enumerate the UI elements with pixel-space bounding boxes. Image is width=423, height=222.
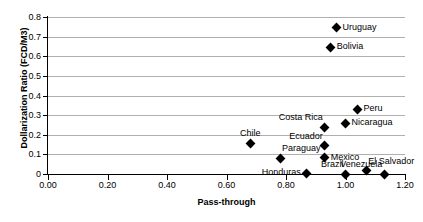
x-tick-mark — [227, 175, 228, 180]
data-point-label: Venezuela — [340, 160, 382, 169]
x-tick-mark — [405, 175, 406, 180]
data-point-label: Nicaragua — [352, 118, 393, 127]
gridline-y — [48, 96, 405, 97]
gridline-y — [48, 115, 405, 116]
y-tick-label: 0.8 — [1, 13, 41, 22]
y-tick-label: 0.3 — [1, 111, 41, 120]
x-tick-mark — [286, 175, 287, 180]
gridline-y — [48, 135, 405, 136]
data-point-label: Bolivia — [337, 42, 364, 51]
y-tick-mark — [43, 96, 48, 97]
data-point-label: Chile — [240, 129, 261, 138]
data-point-label: Paraguay — [282, 144, 321, 153]
diamond-marker-icon — [302, 168, 312, 178]
gridline-y — [48, 76, 405, 77]
x-tick-label: 0.40 — [145, 181, 189, 190]
data-point-label: Honduras — [262, 168, 301, 177]
diamond-marker-icon — [320, 141, 330, 151]
data-point-label: Costa Rica — [279, 113, 323, 122]
y-tick-mark — [43, 56, 48, 57]
data-point-label: Peru — [363, 104, 382, 113]
y-tick-mark — [43, 154, 48, 155]
x-tick-mark — [108, 175, 109, 180]
x-tick-mark — [167, 175, 168, 180]
diamond-marker-icon — [332, 23, 342, 33]
y-tick-label: 0.6 — [1, 52, 41, 61]
y-tick-mark — [43, 76, 48, 77]
y-tick-label: 0.2 — [1, 131, 41, 140]
data-point-label: Uruguay — [343, 23, 377, 32]
diamond-marker-icon — [326, 42, 336, 52]
x-tick-label: 0.00 — [26, 181, 70, 190]
diamond-marker-icon — [352, 104, 362, 114]
y-tick-mark — [43, 37, 48, 38]
gridline-y — [48, 37, 405, 38]
diamond-marker-icon — [245, 139, 255, 149]
y-tick-label: 0.7 — [1, 33, 41, 42]
diamond-marker-icon — [341, 118, 351, 128]
x-tick-label: 0.60 — [205, 181, 249, 190]
x-tick-label: 0.80 — [264, 181, 308, 190]
gridline-y — [48, 17, 405, 18]
y-tick-label: 0.4 — [1, 92, 41, 101]
x-tick-mark — [48, 175, 49, 180]
diamond-marker-icon — [379, 169, 389, 179]
y-tick-label: 0 — [1, 170, 41, 179]
x-tick-label: 0.20 — [86, 181, 130, 190]
gridline-y — [48, 56, 405, 57]
x-tick-label: 1.00 — [324, 181, 368, 190]
x-tick-label: 1.20 — [383, 181, 423, 190]
y-tick-mark — [43, 17, 48, 18]
y-tick-mark — [43, 135, 48, 136]
x-axis-title: Pass-through — [48, 197, 405, 207]
scatter-chart: Dollarization Ratio (FCD/M3) 00.10.20.30… — [0, 0, 423, 222]
plot-area: UruguayBoliviaPeruNicaraguaCosta RicaEcu… — [48, 17, 405, 174]
y-tick-mark — [43, 115, 48, 116]
y-tick-label: 0.5 — [1, 72, 41, 81]
y-tick-label: 0.1 — [1, 150, 41, 159]
x-tick-mark — [346, 175, 347, 180]
data-point-label: Ecuador — [289, 132, 323, 141]
